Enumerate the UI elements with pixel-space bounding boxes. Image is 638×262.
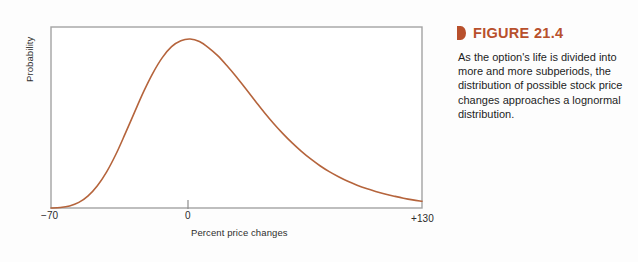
figure-heading: FIGURE 21.4 (457, 25, 563, 41)
plot-background (51, 27, 422, 208)
x-axis-title: Percent price changes (191, 227, 288, 238)
x-tick-label-zero: 0 (185, 210, 191, 221)
triangle-right-marker-icon (457, 26, 466, 40)
chart-panel: Probability Percent price changes −70 0 … (0, 0, 446, 262)
x-tick-label-min: −70 (41, 210, 58, 221)
figure-caption-text: As the option's life is divided into mor… (458, 50, 634, 121)
y-axis-title: Probability (24, 37, 35, 82)
x-tick-label-max: +130 (411, 213, 434, 224)
figure-number-label: FIGURE 21.4 (473, 25, 563, 41)
distribution-plot (0, 0, 446, 262)
figure-page: Probability Percent price changes −70 0 … (0, 0, 638, 262)
figure-caption-panel: FIGURE 21.4 As the option's life is divi… (457, 0, 638, 262)
